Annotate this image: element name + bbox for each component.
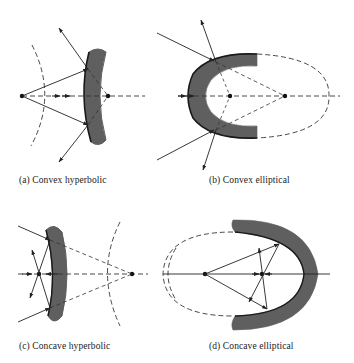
reflected-ray-upper bbox=[30, 240, 50, 298]
reflected-ray-lower bbox=[259, 248, 267, 309]
incident-ray-upper bbox=[157, 33, 214, 61]
incident-ray-lower bbox=[157, 130, 214, 160]
reflected-ray-lower bbox=[59, 125, 88, 162]
reflected-ray-upper bbox=[249, 244, 279, 302]
caption-c: (c) Concave hyperbolic bbox=[19, 341, 110, 351]
incident-ray-upper bbox=[22, 69, 88, 96]
panel-d-concave-elliptical bbox=[163, 220, 330, 330]
caption-d: (d) Concave elliptical bbox=[209, 341, 294, 351]
panel-b-convex-elliptical bbox=[157, 20, 340, 170]
reflected-ray-lower bbox=[32, 250, 50, 308]
incident-ray-lower bbox=[22, 96, 88, 125]
wavefront-arc bbox=[31, 45, 45, 146]
panel-c-concave-hyperbolic bbox=[18, 222, 176, 326]
panel-a-convex-hyperbolic bbox=[20, 28, 145, 162]
incident-ray-upper bbox=[205, 244, 279, 274]
incident-ray-lower bbox=[18, 308, 50, 322]
incident-ray-lower bbox=[205, 274, 267, 309]
caption-a: (a) Convex hyperbolic bbox=[19, 175, 107, 185]
mirror-body bbox=[232, 220, 318, 330]
caption-b: (b) Convex elliptical bbox=[209, 175, 290, 185]
reflected-ray-upper bbox=[59, 28, 88, 69]
reflected-ray-lower bbox=[203, 130, 216, 170]
incident-ray-upper bbox=[18, 226, 50, 240]
